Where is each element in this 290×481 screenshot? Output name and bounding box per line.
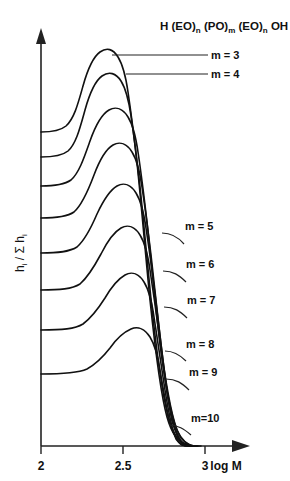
- y-title-sigma: Σ h: [13, 236, 27, 253]
- y-title-h: h: [13, 265, 27, 272]
- x-tick-label-2-5: 2.5: [115, 459, 132, 473]
- chart-figure: H (EO)n (PO)m (EO)n OH 2 2.5 3 log M hi …: [0, 0, 290, 481]
- series-label-m6: m = 6: [186, 258, 214, 270]
- series-label-m3: m = 3: [211, 49, 239, 61]
- series-label-m9: m = 9: [189, 366, 217, 378]
- y-title-sigma-sub: i: [20, 234, 29, 236]
- series-label-m5: m = 5: [185, 220, 213, 232]
- series-label-m4: m = 4: [211, 68, 240, 80]
- formula-eo2: (EO): [239, 20, 263, 32]
- formula-po-sub: m: [228, 26, 235, 35]
- x-tick-label-2: 2: [38, 459, 45, 473]
- formula-oh: OH: [271, 20, 288, 32]
- formula-po: (PO): [204, 20, 228, 32]
- series-label-m7: m = 7: [187, 294, 215, 306]
- series-label-m10: m=10: [191, 412, 219, 424]
- y-axis-title: hi / Σ hi: [13, 234, 29, 272]
- x-axis-title: log M: [210, 459, 241, 473]
- x-tick-label-3: 3: [202, 459, 209, 473]
- formula-h: H: [160, 20, 168, 32]
- formula-eo1: (EO): [172, 20, 196, 32]
- series-label-m8: m = 8: [186, 338, 214, 350]
- chart-svg: H (EO)n (PO)m (EO)n OH 2 2.5 3 log M hi …: [0, 0, 290, 481]
